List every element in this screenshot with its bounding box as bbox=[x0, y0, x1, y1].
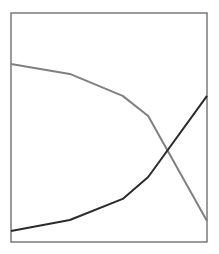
plot-frame bbox=[11, 13, 207, 242]
line-chart bbox=[0, 0, 219, 254]
series-line-decreasing bbox=[11, 64, 207, 221]
series-line-increasing bbox=[11, 96, 207, 231]
series-layer bbox=[11, 64, 207, 231]
